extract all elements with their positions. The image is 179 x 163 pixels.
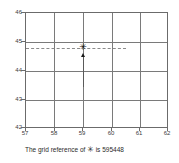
x-tick-label-60: 60	[103, 130, 119, 137]
caption-prefix: The grid reference of	[25, 146, 85, 153]
y-tick-label-44: 44	[2, 67, 22, 73]
gridline-vertical-60	[112, 13, 113, 127]
grid-reference-figure: 46 45 44 43 42 ✳ 57 58 59	[0, 0, 179, 163]
y-axis-labels: 46 45 44 43 42	[0, 12, 22, 128]
x-axis-labels: 57 58 59 60 61 62	[25, 130, 168, 140]
gridline-vertical-58	[54, 13, 55, 127]
easting-arrow-head	[81, 53, 85, 57]
plot-area: ✳	[25, 12, 168, 128]
gridline-horizontal-45	[26, 42, 167, 43]
y-tick-label-43: 43	[2, 96, 22, 102]
y-tick-label-46: 46	[2, 9, 22, 15]
caption: The grid reference of ✳ is 595448	[25, 144, 179, 154]
y-tick-label-45: 45	[2, 38, 22, 44]
caption-star-icon: ✳	[87, 145, 94, 154]
x-tick-label-58: 58	[46, 130, 62, 137]
gridline-horizontal-44	[26, 71, 167, 72]
caption-value: 595448	[102, 146, 124, 153]
x-tick-label-57: 57	[17, 130, 33, 137]
x-tick-label-61: 61	[131, 130, 147, 137]
northing-dashed-reference-line	[26, 48, 126, 49]
caption-middle: is	[96, 146, 101, 153]
x-tick-label-62: 62	[159, 130, 175, 137]
x-tick-label-59: 59	[74, 130, 90, 137]
gridline-horizontal-43	[26, 100, 167, 101]
grid-reference-star-marker[interactable]: ✳	[78, 43, 88, 52]
easting-arrow-shaft	[83, 57, 84, 87]
gridline-vertical-61	[140, 13, 141, 127]
